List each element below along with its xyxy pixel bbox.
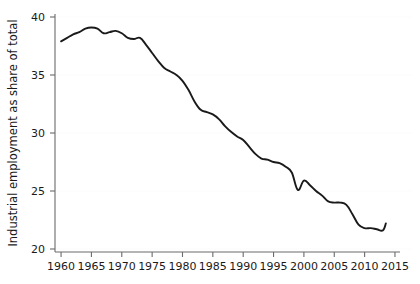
x-tick-label-1985: 1985 (199, 260, 227, 273)
y-tick-label-25: 25 (31, 185, 45, 198)
x-tick-label-2015: 2015 (381, 260, 409, 273)
y-tick-label-35: 35 (31, 69, 45, 82)
x-tick-label-1970: 1970 (108, 260, 136, 273)
chart-container: 2025303540 19601965197019751980198519901… (0, 0, 420, 284)
x-tick-label-1995: 1995 (260, 260, 288, 273)
x-tick-label-1960: 1960 (47, 260, 75, 273)
x-tick-label-2010: 2010 (351, 260, 379, 273)
x-tick-label-2005: 2005 (320, 260, 348, 273)
x-tick-label-1980: 1980 (168, 260, 196, 273)
x-tick-label-1965: 1965 (77, 260, 105, 273)
chart-background (0, 0, 420, 284)
x-tick-label-2000: 2000 (290, 260, 318, 273)
y-axis-title: Industrial employment as share of total (6, 19, 20, 246)
y-tick-label-40: 40 (31, 11, 45, 24)
x-tick-label-1990: 1990 (229, 260, 257, 273)
x-tick-label-1975: 1975 (138, 260, 166, 273)
y-tick-label-20: 20 (31, 243, 45, 256)
y-tick-label-30: 30 (31, 127, 45, 140)
line-chart: 2025303540 19601965197019751980198519901… (0, 0, 420, 284)
